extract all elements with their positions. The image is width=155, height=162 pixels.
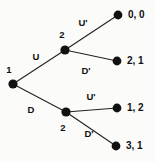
payoff-t2: 2, 1 (127, 56, 144, 66)
payoff-t3: 1, 2 (127, 103, 144, 113)
action-label-e-uu: U' (78, 18, 87, 28)
terminal-node-t3 (113, 104, 122, 113)
action-label-e-u: U (33, 52, 40, 62)
tree-edge-e-ud (65, 50, 117, 61)
action-label-e-d: D (28, 105, 35, 115)
action-label-e-ud: D' (81, 66, 90, 76)
decision-node-lower (61, 107, 70, 116)
terminal-node-t1 (114, 11, 123, 20)
tree-edge-e-uu (65, 15, 118, 50)
player-label-lower: 2 (60, 123, 65, 133)
decision-node-root (8, 79, 17, 88)
action-label-e-dd: D' (84, 129, 93, 139)
decision-node-upper (60, 45, 69, 54)
player-label-upper: 2 (59, 30, 64, 40)
terminal-node-t4 (112, 142, 121, 151)
player-label-root: 1 (6, 65, 11, 75)
tree-edge-e-d (13, 84, 66, 112)
tree-edge-e-du (66, 108, 117, 112)
payoff-t4: 3, 1 (126, 141, 143, 151)
terminal-node-t2 (113, 57, 122, 66)
payoff-t1: 0, 0 (128, 10, 145, 20)
game-tree-figure: 1220, 02, 11, 23, 1UDU'D'U'D' (0, 0, 155, 162)
action-label-e-du: U' (86, 92, 95, 102)
